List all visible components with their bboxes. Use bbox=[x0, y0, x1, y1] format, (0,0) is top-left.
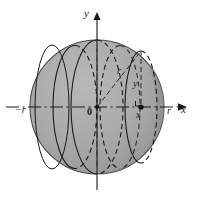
origin-label: 0 bbox=[87, 107, 92, 117]
radius-line-label: r bbox=[117, 66, 121, 76]
y-segment-label: y bbox=[133, 79, 137, 89]
y-axis-label: y bbox=[84, 8, 89, 19]
x-segment-label: x bbox=[136, 110, 140, 120]
neg-radius-label: −r bbox=[15, 105, 26, 115]
sphere-diagram: y x −r r 0 r y x bbox=[0, 0, 199, 197]
x-axis-label: x bbox=[181, 104, 186, 115]
origin-marker bbox=[95, 105, 99, 109]
pos-radius-label: r bbox=[167, 106, 171, 116]
sphere-figure-svg bbox=[0, 0, 199, 197]
